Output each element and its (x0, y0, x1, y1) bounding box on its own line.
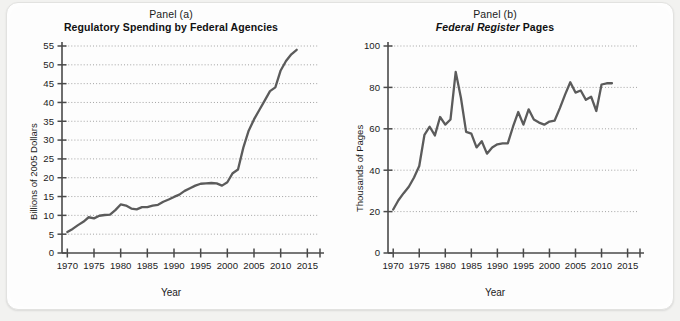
x-tick-label-1980: 1980 (110, 260, 131, 271)
y-tick-label-100: 100 (364, 40, 380, 51)
x-tick-label-1985: 1985 (137, 260, 158, 271)
y-tick-label-55: 55 (43, 40, 54, 51)
y-tick-label-40: 40 (43, 97, 54, 108)
x-tick-label-2015: 2015 (617, 260, 638, 271)
x-tick-label-1970: 1970 (57, 260, 78, 271)
y-tick-label-35: 35 (43, 116, 54, 127)
x-tick-label-2000: 2000 (539, 260, 560, 271)
x-tick-label-1980: 1980 (435, 260, 456, 271)
y-tick-label-50: 50 (43, 59, 54, 70)
x-tick-label-1990: 1990 (487, 260, 508, 271)
y-tick-label-20: 20 (43, 172, 54, 183)
x-tick-label-1975: 1975 (83, 260, 104, 271)
y-tick-label-30: 30 (43, 134, 54, 145)
y-tick-label-40: 40 (369, 165, 380, 176)
x-tick-label-1985: 1985 (461, 260, 482, 271)
x-tick-label-1970: 1970 (383, 260, 404, 271)
x-tick-label-2010: 2010 (270, 260, 291, 271)
y-tick-label-80: 80 (369, 82, 380, 93)
data-line (393, 72, 612, 210)
panel-a-plot: 0510152025303540455055197019751980198519… (6, 0, 336, 306)
panel-b-plot: 0204060801001970197519801985199019952000… (330, 0, 660, 306)
y-tick-label-25: 25 (43, 153, 54, 164)
x-tick-label-1995: 1995 (513, 260, 534, 271)
y-tick-label-10: 10 (43, 210, 54, 221)
x-tick-label-2010: 2010 (591, 260, 612, 271)
y-tick-label-45: 45 (43, 78, 54, 89)
x-tick-label-2000: 2000 (217, 260, 238, 271)
panel-b: Panel (b) Federal Register Pages Thousan… (330, 0, 660, 306)
panel-a: Panel (a) Regulatory Spending by Federal… (6, 0, 336, 306)
x-tick-label-2005: 2005 (243, 260, 264, 271)
y-tick-label-0: 0 (375, 247, 380, 258)
y-tick-label-0: 0 (49, 247, 54, 258)
figure-root: Panel (a) Regulatory Spending by Federal… (0, 0, 680, 321)
x-tick-label-1995: 1995 (190, 260, 211, 271)
x-tick-label-2015: 2015 (297, 260, 318, 271)
data-line (67, 50, 296, 232)
x-tick-label-1990: 1990 (163, 260, 184, 271)
y-tick-label-60: 60 (369, 123, 380, 134)
x-tick-label-2005: 2005 (565, 260, 586, 271)
x-tick-label-1975: 1975 (409, 260, 430, 271)
y-tick-label-15: 15 (43, 191, 54, 202)
y-tick-label-5: 5 (49, 229, 54, 240)
y-tick-label-20: 20 (369, 206, 380, 217)
